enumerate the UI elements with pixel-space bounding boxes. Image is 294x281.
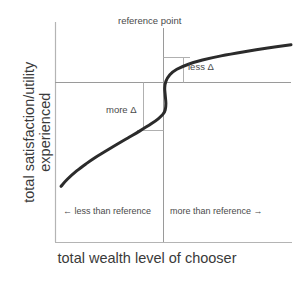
value-function-chart: reference point less Δ more Δ ← less tha… <box>0 0 294 281</box>
annotation-less-delta: less Δ <box>188 62 214 73</box>
y-axis-title-line-2: experienced <box>37 17 53 247</box>
value-function-curve <box>61 45 291 187</box>
y-axis-title-line-1: total satisfaction/utility <box>21 17 37 247</box>
annotation-zone-more-than-reference: more than reference → <box>170 206 263 216</box>
annotation-zone-less-than-reference: ← less than reference <box>63 206 151 216</box>
x-axis-title: total wealth level of chooser <box>0 250 294 266</box>
annotation-more-delta: more Δ <box>106 105 137 116</box>
annotation-reference-point: reference point <box>118 16 181 27</box>
y-axis-title: total satisfaction/utility experienced <box>21 17 53 247</box>
